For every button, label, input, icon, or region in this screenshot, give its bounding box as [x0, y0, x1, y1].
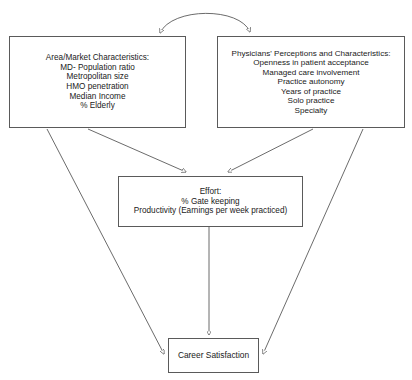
- edge-area-to-physicians: [160, 13, 250, 33]
- node-area-line-4: Median Income: [70, 92, 126, 102]
- node-career-satisfaction: Career Satisfaction: [168, 338, 259, 373]
- node-effort-line-1: % Gate keeping: [181, 197, 239, 207]
- node-physicians-line-0: Physicians' Perceptions and Characterist…: [232, 49, 391, 59]
- node-area-line-5: % Elderly: [80, 101, 115, 111]
- node-area-line-2: Metropolitan size: [67, 72, 129, 82]
- node-physicians-line-5: Solo practice: [288, 96, 335, 106]
- node-effort-line-0: Effort:: [200, 187, 222, 197]
- node-physicians-line-6: Specialty: [295, 106, 328, 116]
- node-career-line-0: Career Satisfaction: [178, 351, 249, 361]
- edge-physicians-to-career: [263, 129, 363, 354]
- node-physicians-perceptions-characteristics: Physicians' Perceptions and Characterist…: [217, 36, 405, 128]
- node-physicians-line-3: Practice autonomy: [277, 77, 344, 87]
- node-area-line-3: HMO penetration: [66, 82, 128, 92]
- path-diagram: Area/Market Characteristics: MD- Populat…: [0, 0, 412, 380]
- edge-physicians-to-effort: [228, 129, 313, 172]
- node-physicians-line-4: Years of practice: [281, 87, 341, 97]
- node-area-line-1: MD- Population ratio: [60, 63, 135, 73]
- node-physicians-line-1: Openness in patient acceptance: [253, 58, 369, 68]
- edge-area-to-effort: [88, 129, 186, 172]
- node-physicians-line-2: Managed care involvement: [262, 68, 359, 78]
- node-area-market-characteristics: Area/Market Characteristics: MD- Populat…: [9, 36, 186, 128]
- edge-area-to-career: [47, 129, 164, 354]
- node-area-line-0: Area/Market Characteristics:: [46, 53, 149, 63]
- node-effort-line-2: Productivity (Earnings per week practice…: [134, 206, 287, 216]
- node-effort: Effort: % Gate keeping Productivity (Ear…: [118, 176, 303, 227]
